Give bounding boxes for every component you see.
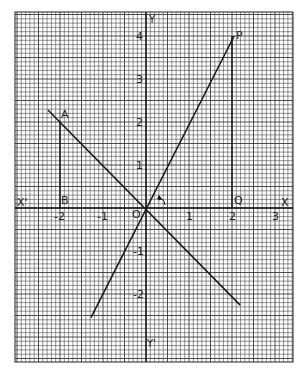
paper-background — [0, 0, 306, 375]
x-tick-label: -2 — [54, 210, 65, 223]
y-tick-label: -2 — [133, 288, 144, 301]
point-label-A: A — [61, 108, 69, 121]
y-tick-label: -1 — [133, 245, 144, 258]
y-tick-label: 1 — [136, 159, 143, 172]
origin-label: O — [132, 208, 141, 221]
x-tick-label: 3 — [272, 210, 279, 223]
y-tick-label: 2 — [136, 116, 143, 129]
point-label-Q: Q — [234, 194, 243, 207]
y-axis-label: Y — [148, 14, 156, 25]
graph-paper-diagram: X X' Y Y' O -2-1123 4321-1-2 A B P Q — [0, 0, 306, 375]
x-tick-label: -1 — [97, 210, 108, 223]
point-label-P: P — [236, 29, 243, 42]
y-tick-label: 3 — [136, 73, 143, 86]
x-axis-label: X — [281, 196, 289, 209]
x-tick-label: 1 — [186, 210, 193, 223]
y-prime-axis-label: Y' — [146, 338, 156, 349]
x-prime-axis-label: X' — [17, 196, 28, 209]
x-tick-label: 2 — [229, 210, 236, 223]
point-label-B: B — [61, 194, 69, 207]
y-tick-label: 4 — [136, 30, 143, 43]
